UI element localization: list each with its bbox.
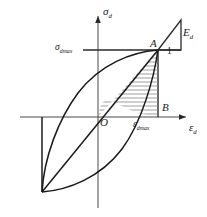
x-axis-label: εd (189, 122, 197, 136)
dynamic-modulus-label: Ed (183, 27, 193, 41)
point-a-label: A (150, 38, 157, 49)
epsilon-dmax-tick-label: εdmax (133, 120, 149, 132)
y-axis-label: σd (103, 6, 112, 20)
y-axis-arrowhead (95, 16, 101, 23)
x-axis-arrowhead (179, 114, 186, 120)
point-b-label: B (162, 102, 169, 113)
origin-label: O (100, 117, 108, 128)
figure-canvas (0, 0, 207, 217)
slope-run-label: 1 (167, 47, 172, 57)
hysteresis-loop-figure: σd εd σdmax εdmax A B O Ed 1 (0, 0, 207, 217)
sigma-dmax-tick-label: σdmax (55, 43, 72, 55)
